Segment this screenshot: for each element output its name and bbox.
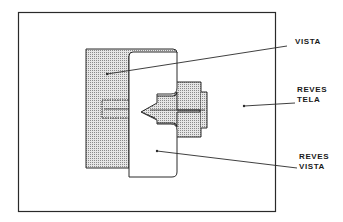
sewing-diagram (0, 0, 343, 222)
label-reves-vista-line2: VISTA (299, 162, 325, 171)
dot-reves-tela (243, 105, 245, 107)
label-vista: VISTA (295, 37, 321, 46)
dot-vista (106, 73, 108, 75)
dot-reves-vista (156, 150, 158, 152)
label-reves-vista-line1: REVES (299, 152, 329, 161)
label-reves-tela-line1: REVES (297, 85, 327, 94)
label-reves-tela-line2: TELA (297, 95, 320, 104)
